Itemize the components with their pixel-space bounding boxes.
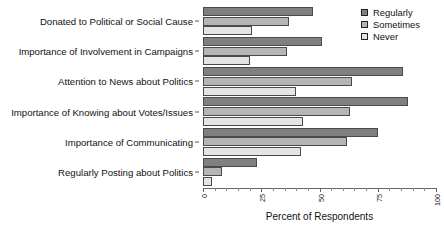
bar-group [203, 67, 436, 95]
x-axis-tick [354, 188, 355, 191]
y-axis-tick [195, 171, 199, 172]
y-axis-label: Importance of Communicating [65, 136, 193, 147]
bar-group [203, 128, 436, 156]
legend-swatch-icon [361, 33, 368, 40]
x-axis-tick [389, 188, 390, 191]
bar-never [203, 56, 250, 65]
bar-regularly [203, 67, 403, 76]
bar-sometimes [203, 167, 222, 176]
y-axis-tick [195, 81, 199, 82]
x-axis-tick [308, 188, 309, 191]
bar-sometimes [203, 17, 289, 26]
x-axis-tick [261, 188, 262, 192]
legend-label: Never [373, 31, 398, 42]
y-axis-tick [195, 21, 199, 22]
x-axis-tick [436, 188, 437, 192]
bar-never [203, 177, 212, 186]
y-axis-label: Importance of Knowing about Votes/Issues [11, 106, 193, 117]
x-axis-tick [273, 188, 274, 191]
x-axis-tick-label: 75 [375, 194, 384, 202]
x-axis-tick [215, 188, 216, 191]
bar-regularly [203, 128, 378, 137]
x-axis-tick-label: 25 [258, 194, 267, 202]
y-axis-label: Importance of Involvement in Campaigns [19, 46, 193, 57]
bar-sometimes [203, 107, 350, 116]
y-axis-tick [195, 141, 199, 142]
legend-swatch-icon [361, 21, 368, 28]
y-axis-label: Attention to News about Politics [58, 76, 193, 87]
bar-regularly [203, 158, 257, 167]
chart-legend: RegularlySometimesNever [361, 7, 441, 43]
x-axis-title: Percent of Respondents [203, 211, 436, 222]
x-axis-tick [331, 188, 332, 191]
x-axis-tick-label: 100 [433, 194, 442, 206]
x-axis-tick-label: 0 [200, 194, 209, 198]
x-axis-tick [320, 188, 321, 192]
bar-never [203, 87, 296, 96]
y-axis-label: Donated to Political or Social Cause [40, 16, 193, 27]
x-axis-tick [203, 188, 204, 192]
x-axis-tick [366, 188, 367, 191]
legend-item-never: Never [361, 31, 441, 42]
legend-label: Sometimes [373, 19, 420, 30]
bar-sometimes [203, 77, 352, 86]
bar-never [203, 147, 301, 156]
x-axis-tick [413, 188, 414, 191]
legend-item-regularly: Regularly [361, 7, 441, 18]
x-axis-tick [424, 188, 425, 191]
legend-swatch-icon [361, 9, 368, 16]
bar-regularly [203, 7, 313, 16]
x-axis-tick [401, 188, 402, 191]
legend-item-sometimes: Sometimes [361, 19, 441, 30]
legend-label: Regularly [373, 7, 413, 18]
x-axis-tick [343, 188, 344, 191]
y-axis-label: Regularly Posting about Politics [58, 166, 193, 177]
bar-regularly [203, 37, 322, 46]
x-axis-tick [296, 188, 297, 191]
y-axis-tick [195, 51, 199, 52]
x-axis-tick [238, 188, 239, 191]
bar-regularly [203, 97, 408, 106]
bar-never [203, 26, 252, 35]
y-axis-labels: Donated to Political or Social CauseImpo… [0, 6, 199, 187]
bar-group [203, 158, 436, 186]
bar-sometimes [203, 137, 347, 146]
bar-chart: Donated to Political or Social CauseImpo… [0, 0, 444, 227]
x-axis-tick-label: 50 [317, 194, 326, 202]
x-axis-tick [285, 188, 286, 191]
x-axis-tick [250, 188, 251, 191]
y-axis-tick [195, 111, 199, 112]
bar-never [203, 117, 303, 126]
x-axis-tick [226, 188, 227, 191]
bar-group [203, 97, 436, 125]
bar-sometimes [203, 47, 287, 56]
x-axis-tick [378, 188, 379, 192]
